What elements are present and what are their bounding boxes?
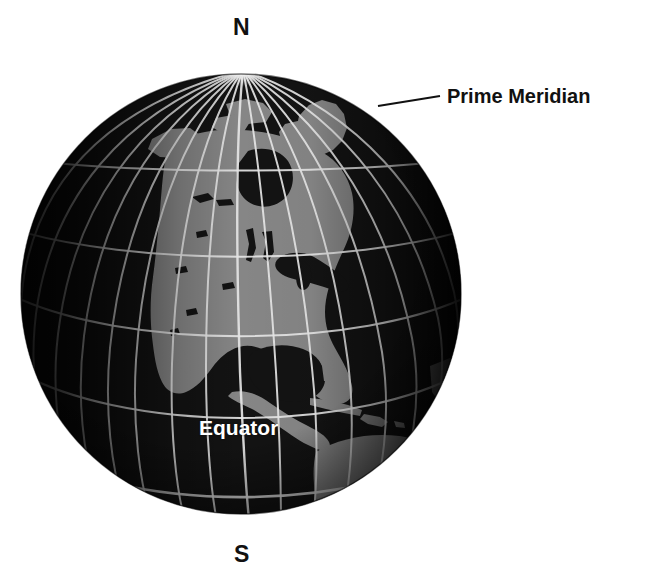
north-pole-highlight [227, 55, 259, 87]
equator-label: Equator [199, 417, 278, 438]
globe-diagram-figure: N S Prime Meridian Equator [0, 0, 649, 580]
north-pole-label: N [233, 16, 250, 39]
globe-shading [21, 73, 461, 515]
landmass-eurasia-limb [410, 104, 461, 152]
south-pole-label: S [234, 543, 249, 566]
prime-meridian-label: Prime Meridian [447, 86, 590, 106]
prime-meridian-leader-line [378, 96, 440, 106]
limb-darkening [21, 73, 461, 515]
